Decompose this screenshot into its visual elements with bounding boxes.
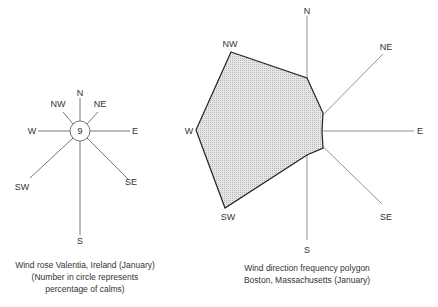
wind-rose-caption-line2: (Number in circle represents xyxy=(10,271,160,283)
polygon-caption-line2: Boston, Massachusetts (January) xyxy=(228,274,386,286)
rose-arm-se xyxy=(87,138,128,179)
rose-arm-sw xyxy=(30,138,73,178)
wind-diagrams-figure: 9 N NE E SE S SW W NW N NE E SE S SW W N… xyxy=(0,0,438,307)
wind-rose-caption-line3: percentage of calms) xyxy=(10,283,160,295)
poly-label-se: SE xyxy=(380,212,392,222)
poly-label-n: N xyxy=(304,6,311,16)
frequency-polygon-axes xyxy=(307,16,414,240)
rose-label-nw: NW xyxy=(51,99,66,109)
poly-label-nw: NW xyxy=(223,39,238,49)
poly-label-w: W xyxy=(185,126,194,136)
wind-rose-caption: Wind rose Valentia, Ireland (January) (N… xyxy=(10,259,160,295)
polygon-caption: Wind direction frequency polygon Boston,… xyxy=(228,262,386,286)
rose-arm-ne xyxy=(87,112,98,124)
wind-rose xyxy=(30,98,130,235)
poly-label-s: S xyxy=(304,245,310,255)
calm-percentage: 9 xyxy=(77,126,82,136)
rose-label-s: S xyxy=(77,236,83,246)
poly-label-sw: SW xyxy=(221,212,236,222)
rose-label-se: SE xyxy=(125,177,137,187)
wind-rose-caption-line1: Wind rose Valentia, Ireland (January) xyxy=(10,259,160,271)
rose-label-ne: NE xyxy=(94,99,107,109)
rose-label-n: N xyxy=(77,88,84,98)
poly-label-e: E xyxy=(417,126,423,136)
rose-label-sw: SW xyxy=(15,182,30,192)
polygon-caption-line1: Wind direction frequency polygon xyxy=(228,262,386,274)
rose-label-e: E xyxy=(132,126,138,136)
poly-label-ne: NE xyxy=(380,42,393,52)
rose-arm-nw xyxy=(63,112,73,124)
frequency-polygon xyxy=(196,52,323,208)
rose-label-w: W xyxy=(28,126,37,136)
